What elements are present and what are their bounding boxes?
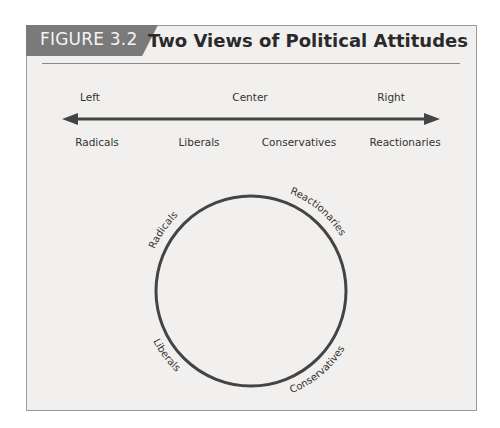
circle-label-reactionaries: Reactionaries xyxy=(289,185,348,237)
diagram-graphics: Radicals Reactionaries Liberals Conserva… xyxy=(0,0,500,428)
political-circle xyxy=(156,196,346,386)
circle-label-conservatives: Conservatives xyxy=(288,343,347,395)
circle-label-liberals: Liberals xyxy=(151,337,183,374)
circle-label-radicals: Radicals xyxy=(146,209,179,250)
spectrum-arrow xyxy=(62,113,440,125)
